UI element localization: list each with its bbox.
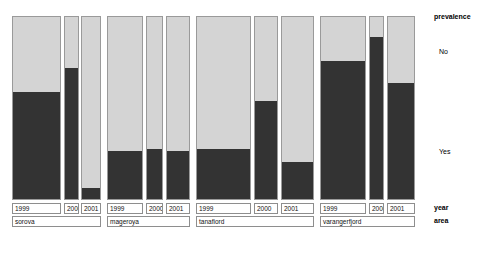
bar-tanafiord-2001[interactable] <box>281 16 314 200</box>
year-label-1: 2000 <box>64 203 79 214</box>
area-label-mageroya: mageroya <box>107 216 190 227</box>
bar-segment-yes <box>255 101 277 199</box>
legend-title: prevalence <box>434 13 471 20</box>
bar-mageroya-1999[interactable] <box>107 16 143 200</box>
bar-segment-yes <box>321 61 365 199</box>
bar-sorova-1999[interactable] <box>12 16 61 200</box>
year-label-7: 2000 <box>254 203 278 214</box>
area-label-varangerfjord: varangerfjord <box>320 216 415 227</box>
bar-segment-yes <box>197 149 250 199</box>
year-label-10: 2000 <box>369 203 384 214</box>
year-label-4: 2000 <box>146 203 163 214</box>
mosaic-chart: 1999200020011999200020011999200020011999… <box>0 0 486 258</box>
year-label-3: 1999 <box>107 203 143 214</box>
legend-label-yes: Yes <box>439 148 450 155</box>
area-label-tanafiord: tanafiord <box>196 216 314 227</box>
axis-title-year: year <box>434 204 448 211</box>
bar-segment-yes <box>82 188 100 199</box>
year-label-11: 2001 <box>387 203 415 214</box>
bar-segment-yes <box>388 83 414 199</box>
bar-sorova-2001[interactable] <box>81 16 101 200</box>
bar-varangerfjord-2001[interactable] <box>387 16 415 200</box>
year-label-0: 1999 <box>12 203 61 214</box>
bar-sorova-2000[interactable] <box>64 16 79 200</box>
bar-segment-yes <box>108 151 142 199</box>
bar-tanafiord-2000[interactable] <box>254 16 278 200</box>
year-label-2: 2001 <box>81 203 101 214</box>
bar-tanafiord-1999[interactable] <box>196 16 251 200</box>
bar-segment-yes <box>13 92 60 199</box>
bar-segment-yes <box>282 162 313 199</box>
bar-segment-yes <box>147 149 162 199</box>
area-label-sorova: sorova <box>12 216 101 227</box>
bar-varangerfjord-2000[interactable] <box>369 16 384 200</box>
year-label-8: 2001 <box>281 203 314 214</box>
legend-label-no: No <box>439 48 448 55</box>
year-label-9: 1999 <box>320 203 366 214</box>
bar-mageroya-2001[interactable] <box>166 16 190 200</box>
bar-segment-yes <box>167 151 189 199</box>
year-label-6: 1999 <box>196 203 251 214</box>
year-label-5: 2001 <box>166 203 190 214</box>
bar-mageroya-2000[interactable] <box>146 16 163 200</box>
bar-segment-yes <box>65 68 78 199</box>
bar-segment-yes <box>370 37 383 199</box>
axis-title-area: area <box>434 217 448 224</box>
bar-varangerfjord-1999[interactable] <box>320 16 366 200</box>
